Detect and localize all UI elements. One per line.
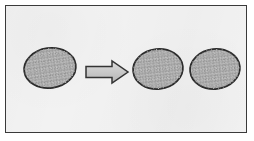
diagram-border	[5, 5, 247, 133]
diagram-canvas	[6, 6, 246, 132]
figure-root: A bordered panel showing one shaded oval…	[0, 0, 254, 141]
